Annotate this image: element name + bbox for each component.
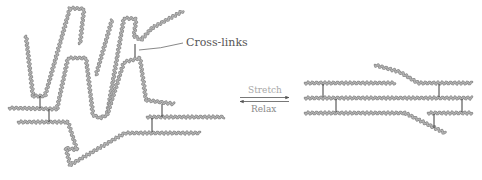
crosslinks-label: Cross-links [186, 36, 248, 49]
relax-label: Relax [251, 104, 276, 114]
polymer-chain [305, 112, 445, 133]
crosslink-diagram [0, 0, 482, 180]
stretched-crosslinks [323, 84, 462, 128]
stretched-network [305, 65, 472, 134]
polymer-chain [25, 7, 85, 97]
relaxed-network [9, 7, 224, 166]
polymer-chain [18, 121, 200, 166]
stretch-relax-arrows [240, 98, 289, 102]
polymer-chain [9, 11, 183, 118]
stretch-label: Stretch [248, 85, 282, 95]
crosslink-leader-line [139, 43, 183, 50]
polymer-chain [375, 65, 472, 85]
